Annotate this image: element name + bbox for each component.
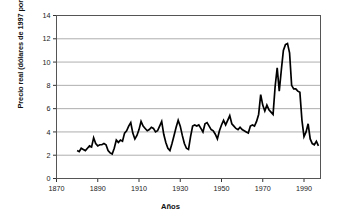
- y-axis-tick-marks: [53, 16, 57, 179]
- y-tick-label: 4: [47, 128, 51, 137]
- y-axis-tick-labels: 02468101214: [43, 11, 51, 183]
- y-tick-label: 2: [47, 151, 51, 160]
- x-tick-label: 1970: [255, 184, 271, 193]
- x-axis-tick-marks: [57, 179, 305, 183]
- x-axis-tick-labels: 1870189019101930195019701990: [49, 184, 313, 193]
- plot-frame: [57, 16, 321, 179]
- y-tick-label: 6: [47, 104, 51, 113]
- chart-plot-area: 02468101214 1870189019101930195019701990: [0, 0, 341, 224]
- y-tick-label: 12: [43, 34, 51, 43]
- grid-lines: [57, 16, 321, 156]
- y-tick-label: 10: [43, 58, 51, 67]
- x-tick-label: 1930: [172, 184, 188, 193]
- y-tick-label: 0: [47, 174, 51, 183]
- x-tick-label: 1990: [296, 184, 312, 193]
- y-tick-label: 14: [43, 11, 51, 20]
- x-tick-label: 1890: [90, 184, 106, 193]
- coffee-real-price-chart: Precio real (dólares de 1997 por libra) …: [0, 0, 341, 224]
- data-series-line: [77, 43, 318, 154]
- y-tick-label: 8: [47, 81, 51, 90]
- x-tick-label: 1870: [49, 184, 65, 193]
- x-axis-title: Años: [0, 202, 341, 211]
- x-tick-label: 1950: [214, 184, 230, 193]
- x-tick-label: 1910: [131, 184, 147, 193]
